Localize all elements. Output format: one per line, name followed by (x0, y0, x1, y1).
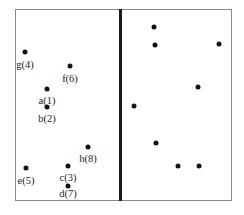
point-h (86, 145, 91, 150)
point-e (24, 166, 29, 171)
point-label-g: g(4) (16, 59, 34, 70)
panel-divider (119, 9, 122, 201)
right-point-3 (217, 42, 222, 47)
right-point-8 (197, 164, 202, 169)
right-point-6 (154, 141, 159, 146)
right-point-1 (152, 25, 157, 30)
right-point-5 (132, 104, 137, 109)
point-a (45, 87, 50, 92)
right-point-2 (153, 43, 158, 48)
right-point-4 (196, 85, 201, 90)
point-label-c: c(3) (60, 172, 77, 183)
right-point-7 (176, 164, 181, 169)
point-label-d: d(7) (59, 188, 77, 199)
point-label-h: h(8) (79, 153, 97, 164)
point-c (66, 164, 71, 169)
point-label-b: b(2) (38, 113, 56, 124)
point-g (23, 50, 28, 55)
point-label-e: e(5) (18, 175, 35, 186)
point-b (45, 105, 50, 110)
point-f (68, 64, 73, 69)
diagram-canvas: g(4)f(6)a(1)b(2)h(8)e(5)c(3)d(7) (0, 0, 244, 215)
point-label-f: f(6) (62, 73, 78, 84)
